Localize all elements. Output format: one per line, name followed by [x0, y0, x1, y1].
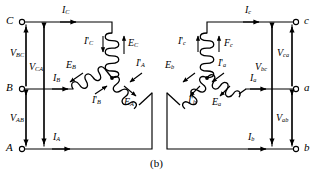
left-arrow-EA: [124, 86, 136, 96]
current-label-Ia: Ia: [250, 73, 257, 83]
current-label-IC: IC: [62, 5, 70, 15]
terminal-label-B: B: [6, 82, 13, 93]
left-coil-B: [72, 67, 112, 89]
left-arrow-IpB: [95, 86, 107, 94]
terminal-label-c: c: [304, 15, 309, 26]
current-label-Ib: Ib: [248, 132, 255, 142]
figure-caption: (b): [150, 157, 163, 169]
left-line-C: [25, 22, 112, 33]
current-label-IA: IA: [53, 132, 60, 142]
emf-label-Ea: Ea: [212, 97, 221, 107]
winding-current-label-Ipa: I'a: [218, 58, 226, 69]
terminal-label-b: b: [304, 142, 310, 153]
left-arrow-EB: [70, 73, 83, 82]
voltage-label-Vbc: Vbc: [255, 62, 267, 72]
emf-label-EA: EA: [124, 97, 134, 107]
circuit-line-art: [0, 0, 318, 175]
current-label-IB: IB: [53, 73, 60, 83]
emf-label-EC: EC: [128, 38, 138, 48]
emf-label-EB: EB: [66, 60, 76, 70]
left-arrow-IpA: [130, 73, 142, 82]
winding-current-label-IpB: I'B: [92, 95, 101, 106]
winding-current-label-Ipb: I'b: [188, 95, 196, 106]
winding-current-label-IpC: I'C: [84, 36, 93, 47]
emf-label-Eb: Eb: [165, 60, 174, 70]
terminal-label-A: A: [6, 142, 13, 153]
winding-current-label-Ipc: I'c: [178, 36, 186, 47]
voltage-label-VCA: VCA: [29, 62, 43, 72]
winding-current-label-IpA: I'A: [136, 58, 145, 69]
voltage-label-Vab: Vab: [276, 113, 288, 123]
voltage-label-VAB: VAB: [10, 113, 24, 123]
right-arrow-Eb: [183, 73, 195, 82]
right-coil-b: [167, 77, 207, 109]
right-terminal-dots: [293, 19, 298, 151]
left-terminal-dots: [19, 19, 24, 151]
voltage-label-Vca: Vca: [277, 48, 289, 58]
right-coil-c: [200, 33, 214, 78]
left-star-node: [110, 76, 114, 80]
right-coil-a: [207, 75, 246, 98]
terminal-label-C: C: [6, 15, 13, 26]
current-label-Ic: Ic: [245, 5, 251, 15]
right-line-c: [207, 22, 293, 33]
terminal-label-a: a: [304, 82, 310, 93]
right-star-node: [205, 76, 209, 80]
mmf-label-Fc: Fc: [224, 38, 233, 48]
voltage-label-VBC: VBC: [10, 48, 24, 58]
figure-b-three-phase-wye-windings: C B A IC IB IA VBC VCA VAB I'C I'B I'A E…: [0, 0, 318, 175]
